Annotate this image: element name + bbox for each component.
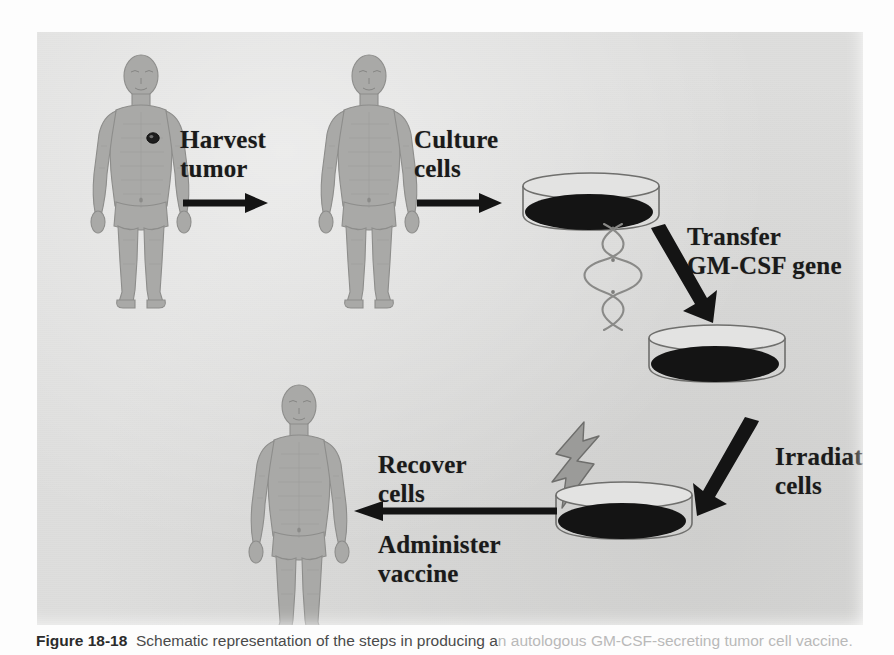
arrow-harvest-right [183, 190, 269, 216]
tumor-lesion-marker [147, 133, 159, 143]
petri-dish-transfected-cells [641, 322, 793, 396]
step-label-administer: Administer vaccine [378, 530, 501, 588]
figure-caption-text: Schematic representation of the steps in… [136, 632, 498, 649]
arrow-culture-right [417, 190, 503, 216]
figure-caption-tail: n autologous GM-CSF-secreting tumor cell… [498, 632, 853, 649]
step-label-harvest: Harvest tumor [180, 125, 266, 183]
figure-caption: Figure 18-18 Schematic representation of… [36, 631, 882, 651]
figure-panel: Harvest tumor [37, 32, 863, 625]
scanned-page: Harvest tumor [0, 0, 894, 655]
dna-double-helix [582, 222, 644, 334]
petri-dish-irradiated-cells [548, 479, 700, 553]
step-label-irradiate: Irradiate cells [775, 442, 863, 500]
patient-vaccinated [233, 380, 365, 625]
arrow-recover-left [353, 498, 557, 524]
arrow-transfer-down-right [641, 224, 727, 326]
step-label-culture: Culture cells [414, 125, 498, 183]
figure-caption-number: Figure 18-18 [36, 632, 127, 649]
